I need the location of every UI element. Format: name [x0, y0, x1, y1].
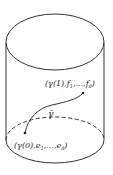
end-point-label: (γ(1),f1,...,fd)	[45, 79, 95, 89]
start-point-dot	[24, 132, 27, 135]
cylinder-bottom-back-dashed	[6, 117, 104, 140]
start-point-label: (γ(0),e1,...,ed)	[14, 141, 67, 151]
path-gamma-curve	[25, 93, 83, 133]
path-label: γ̄	[48, 109, 54, 119]
cylinder-top-ellipse	[6, 14, 104, 70]
end-point-dot	[82, 92, 85, 95]
cylinder-diagram: (γ(1),f1,...,fd) γ̄ (γ(0),e1,...,ed)	[0, 0, 113, 175]
